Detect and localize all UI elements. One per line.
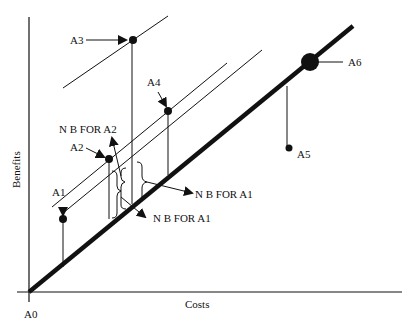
brace-nb-a1-lower <box>112 171 121 218</box>
brace-nb-a2 <box>121 168 126 209</box>
label-a2: A2 <box>70 141 83 153</box>
label-a3: A3 <box>70 34 84 46</box>
pointer-a2 <box>86 148 104 157</box>
annotation-nb-a1-lower: N B FOR A1 <box>153 212 211 224</box>
point-a5 <box>286 145 293 152</box>
label-a6: A6 <box>348 56 362 68</box>
point-a6 <box>301 53 319 71</box>
label-a4: A4 <box>147 76 161 88</box>
point-a2 <box>105 155 113 163</box>
cost-benefit-diagram: A1 A2 A3 A4 A5 A6 N B FOR A2 N B FOR A1 … <box>0 0 415 333</box>
point-a3 <box>129 36 137 44</box>
point-a1 <box>59 215 67 223</box>
origin-label: A0 <box>24 308 38 320</box>
label-a1: A1 <box>52 186 65 198</box>
x-axis-label: Costs <box>185 298 209 310</box>
pointer-a4 <box>158 92 166 106</box>
point-a4 <box>164 107 172 115</box>
iso-line-upper <box>52 63 227 207</box>
annotation-nb-a1-upper: N B FOR A1 <box>195 188 253 200</box>
annotation-nb-a2: N B FOR A2 <box>59 123 117 135</box>
y-axis-label: Benefits <box>10 151 22 188</box>
axes <box>17 17 402 302</box>
label-a5: A5 <box>297 148 311 160</box>
